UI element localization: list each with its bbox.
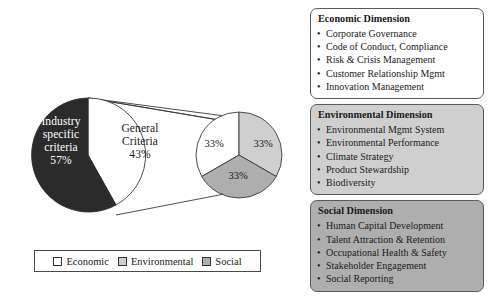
panel-title-economic: Economic Dimension [318,13,477,26]
legend-swatch-environmental [118,257,127,266]
chart-legend: Economic Environmental Social [34,250,261,272]
list-item: Innovation Management [317,80,477,93]
list-item: Climate Strategy [317,150,477,163]
list-item: Biodiversity [317,176,477,189]
panel-list-environmental: Environmental Mgmt System Environmental … [317,123,477,189]
pie-chart-svg [0,0,300,250]
legend-label-social: Social [215,256,241,267]
panel-list-social: Human Capital Development Talent Attract… [317,219,477,285]
detail-pie-group [196,112,282,198]
panel-title-environmental: Environmental Dimension [318,109,477,122]
legend-item-social: Social [202,256,241,267]
figure-caption [30,283,330,290]
panel-social-dimension: Social Dimension Human Capital Developme… [310,200,484,291]
legend-item-economic: Economic [53,256,109,267]
list-item: Corporate Governance [317,27,477,40]
list-item: Stakeholder Engagement [317,259,477,272]
panel-economic-dimension: Economic Dimension Corporate Governance … [310,8,484,99]
dimension-panels: Economic Dimension Corporate Governance … [310,8,484,296]
legend-label-environmental: Environmental [131,256,193,267]
main-pie-group [32,98,146,212]
list-item: Social Reporting [317,272,477,285]
list-item: Risk & Crisis Management [317,53,477,66]
pie-chart-area: Industry specific criteria 57% General C… [0,0,300,290]
list-item: Human Capital Development [317,219,477,232]
legend-item-environmental: Environmental [118,256,193,267]
legend-label-economic: Economic [66,256,109,267]
list-item: Environmental Mgmt System [317,123,477,136]
panel-environmental-dimension: Environmental Dimension Environmental Mg… [310,104,484,195]
list-item: Talent Attraction & Retention [317,233,477,246]
legend-swatch-economic [53,257,62,266]
list-item: Environmental Performance [317,136,477,149]
list-item: Occupational Health & Safety [317,246,477,259]
list-item: Product Stewardship [317,163,477,176]
panel-list-economic: Corporate Governance Code of Conduct, Co… [317,27,477,93]
list-item: Customer Relationship Mgmt [317,67,477,80]
legend-swatch-social [202,257,211,266]
panel-title-social: Social Dimension [318,205,477,218]
list-item: Code of Conduct, Compliance [317,40,477,53]
